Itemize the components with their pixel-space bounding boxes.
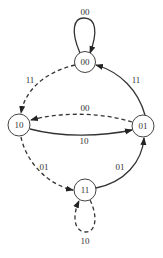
edge-label: 11 [26, 75, 35, 85]
node-label: 01 [139, 121, 148, 131]
state-node-10: 10 [8, 114, 30, 136]
state-node-11: 11 [74, 179, 96, 201]
edge-10-01 [30, 129, 132, 135]
edge-label: 01 [116, 162, 125, 172]
state-node-01: 01 [132, 115, 154, 137]
edge-01-10 [31, 114, 132, 122]
edge-label: 10 [80, 136, 90, 146]
node-label: 11 [81, 185, 90, 195]
edge-label: 00 [81, 7, 91, 17]
node-label: 10 [15, 120, 25, 130]
edge-00-10 [21, 65, 75, 113]
edge-01-00 [96, 65, 145, 115]
edge-label: 11 [132, 75, 141, 85]
state-diagram: 00 11 11 00 10 01 01 10 00 10 01 11 [0, 0, 163, 258]
edge-label: 01 [40, 162, 49, 172]
node-label: 00 [81, 57, 91, 67]
edge-label: 00 [81, 103, 91, 113]
edge-00-00 [74, 18, 95, 53]
diagram-canvas: 00 11 11 00 10 01 01 10 00 10 01 11 [0, 0, 163, 258]
edge-11-11 [75, 200, 95, 232]
state-node-00: 00 [75, 52, 96, 73]
edge-label: 10 [81, 236, 91, 246]
